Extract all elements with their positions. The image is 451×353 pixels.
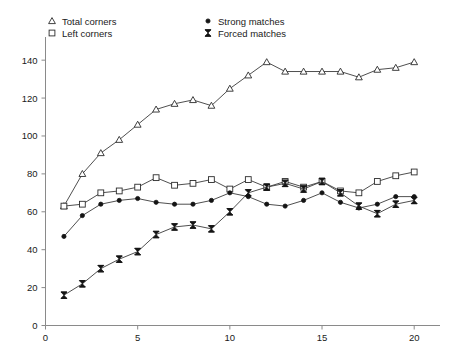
data-point-marker bbox=[320, 191, 324, 195]
series-total-corners bbox=[61, 59, 418, 209]
chart-canvas: 020406080100120140 05101520 Total corner… bbox=[0, 0, 451, 353]
data-point-marker bbox=[411, 169, 417, 175]
data-point-marker bbox=[136, 196, 140, 200]
y-tick-label: 40 bbox=[27, 244, 38, 255]
y-axis: 020406080100120140 bbox=[22, 37, 46, 331]
legend-label: Total corners bbox=[62, 16, 117, 27]
data-point-marker bbox=[393, 173, 399, 179]
y-tick-label: 0 bbox=[32, 320, 37, 331]
line-chart: 020406080100120140 05101520 Total corner… bbox=[0, 0, 451, 353]
data-point-marker bbox=[80, 213, 84, 217]
data-point-marker bbox=[61, 292, 67, 298]
series-strong-matches bbox=[62, 191, 416, 239]
data-point-marker bbox=[245, 72, 252, 78]
data-point-marker bbox=[263, 59, 270, 65]
data-point-marker bbox=[356, 203, 362, 209]
data-point-marker bbox=[153, 175, 159, 181]
data-point-marker bbox=[245, 177, 251, 183]
y-tick-label: 120 bbox=[22, 93, 38, 104]
data-point-marker bbox=[191, 202, 195, 206]
legend-marker-dot-solid bbox=[206, 19, 210, 23]
series-layer bbox=[61, 59, 418, 299]
data-point-marker bbox=[97, 150, 104, 156]
data-point-marker bbox=[190, 180, 196, 186]
data-point-marker bbox=[116, 188, 122, 194]
data-point-marker bbox=[209, 177, 215, 183]
y-tick-label: 80 bbox=[27, 168, 38, 179]
data-point-marker bbox=[356, 190, 362, 196]
legend-item-forced-matches[interactable]: Forced matches bbox=[205, 28, 286, 39]
y-tick-label: 60 bbox=[27, 206, 38, 217]
data-point-marker bbox=[411, 59, 418, 65]
data-point-marker bbox=[172, 202, 176, 206]
x-tick-label: 10 bbox=[225, 332, 236, 343]
data-point-marker bbox=[301, 198, 305, 202]
data-point-marker bbox=[245, 190, 251, 196]
data-point-marker bbox=[61, 203, 67, 209]
legend-item-total-corners[interactable]: Total corners bbox=[49, 16, 117, 27]
data-point-marker bbox=[98, 265, 104, 271]
data-point-marker bbox=[62, 234, 66, 238]
data-point-marker bbox=[79, 201, 85, 207]
data-point-marker bbox=[338, 200, 342, 204]
data-point-marker bbox=[394, 195, 398, 199]
y-tick-label: 140 bbox=[22, 55, 38, 66]
data-point-marker bbox=[99, 202, 103, 206]
data-point-marker bbox=[190, 97, 197, 103]
legend-marker-triangle-open bbox=[49, 18, 56, 24]
x-tick-label: 5 bbox=[135, 332, 140, 343]
legend-label: Forced matches bbox=[218, 28, 286, 39]
x-tick-label: 20 bbox=[409, 332, 420, 343]
legend-label: Left corners bbox=[62, 28, 112, 39]
data-point-marker bbox=[226, 85, 233, 91]
data-point-marker bbox=[98, 190, 104, 196]
legend-item-left-corners[interactable]: Left corners bbox=[49, 28, 112, 39]
data-point-marker bbox=[117, 198, 121, 202]
series-forced-matches bbox=[61, 178, 417, 298]
data-point-marker bbox=[374, 210, 380, 216]
series-line bbox=[64, 193, 414, 237]
x-axis: 05101520 bbox=[43, 326, 440, 343]
series-line bbox=[64, 181, 414, 295]
x-tick-label: 15 bbox=[317, 332, 328, 343]
data-point-marker bbox=[135, 184, 141, 190]
data-point-marker bbox=[135, 248, 141, 254]
data-point-marker bbox=[228, 191, 232, 195]
data-point-marker bbox=[172, 182, 178, 188]
data-point-marker bbox=[227, 209, 233, 215]
series-left-corners bbox=[61, 169, 417, 209]
data-point-marker bbox=[116, 256, 122, 262]
data-point-marker bbox=[154, 200, 158, 204]
chart-legend: Total cornersLeft cornersStrong matchesF… bbox=[49, 16, 287, 39]
y-tick-label: 20 bbox=[27, 282, 38, 293]
legend-marker-bowtie-solid bbox=[205, 30, 211, 36]
data-point-marker bbox=[209, 198, 213, 202]
data-point-marker bbox=[79, 281, 85, 287]
legend-label: Strong matches bbox=[218, 16, 285, 27]
data-point-marker bbox=[375, 202, 379, 206]
x-tick-label: 0 bbox=[43, 332, 48, 343]
data-point-marker bbox=[283, 204, 287, 208]
data-point-marker bbox=[153, 231, 159, 237]
legend-marker-square-open bbox=[49, 30, 55, 36]
data-point-marker bbox=[374, 179, 380, 185]
y-tick-label: 100 bbox=[22, 130, 38, 141]
data-point-marker bbox=[265, 202, 269, 206]
legend-item-strong-matches[interactable]: Strong matches bbox=[206, 16, 285, 27]
